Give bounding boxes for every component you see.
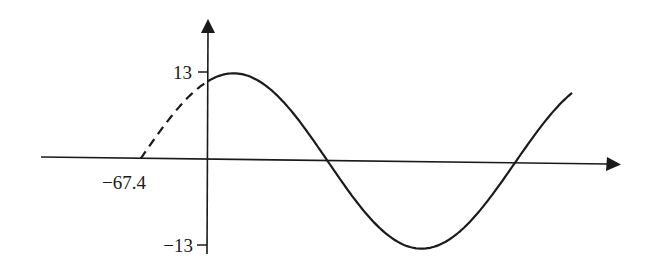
y-axis: [207, 30, 208, 254]
y-axis-arrow-icon: [201, 19, 215, 33]
dashed-curve: [141, 82, 207, 159]
x-intercept-label: −67.4: [102, 172, 146, 193]
sinusoid-chart: 13 −13 −67.4: [0, 0, 649, 273]
y-tick-label-13: 13: [173, 62, 192, 83]
x-axis-arrow-icon: [606, 157, 621, 171]
y-tick-label-neg13: −13: [163, 235, 193, 256]
